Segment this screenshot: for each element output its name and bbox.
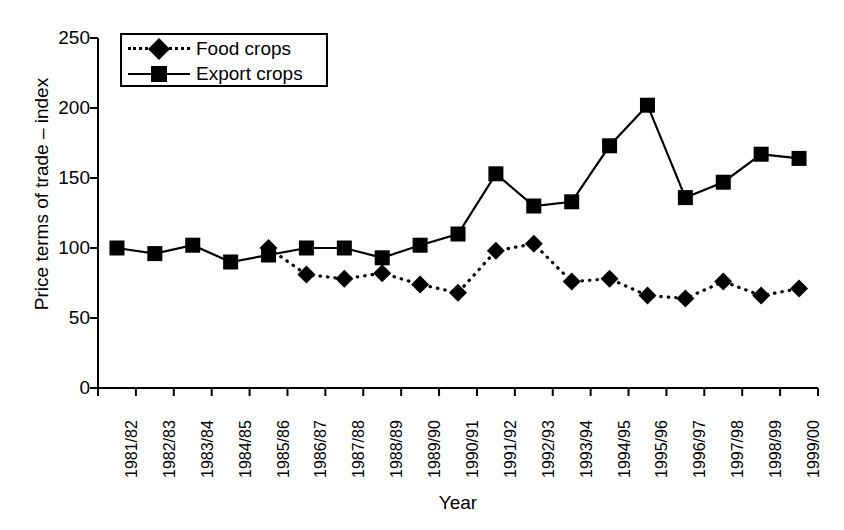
square-marker <box>337 241 352 256</box>
square-marker <box>299 241 314 256</box>
square-marker <box>147 246 162 261</box>
square-marker <box>185 238 200 253</box>
square-marker <box>602 138 617 153</box>
square-marker <box>526 199 541 214</box>
series-export-crops <box>109 98 806 270</box>
diamond-marker <box>335 270 353 288</box>
square-marker <box>109 241 124 256</box>
square-marker <box>564 194 579 209</box>
square-marker <box>716 175 731 190</box>
axis-lines <box>98 38 818 388</box>
diamond-marker <box>752 287 770 305</box>
diamond-marker <box>601 270 619 288</box>
x-axis-ticks <box>98 388 818 396</box>
square-marker <box>375 250 390 265</box>
legend-label-export-crops: Export crops <box>196 64 303 83</box>
square-marker <box>792 151 807 166</box>
legend-item-food-crops: Food crops <box>122 36 326 61</box>
square-marker <box>261 248 276 263</box>
diamond-marker <box>714 273 732 291</box>
square-marker-icon <box>147 62 171 86</box>
diamond-marker <box>563 273 581 291</box>
square-marker <box>223 255 238 270</box>
diamond-marker <box>373 264 391 282</box>
diamond-marker <box>676 289 694 307</box>
diamond-marker <box>525 235 543 253</box>
diamond-marker-icon <box>146 36 172 62</box>
square-marker <box>678 190 693 205</box>
square-marker <box>413 238 428 253</box>
diamond-marker <box>638 287 656 305</box>
square-marker <box>488 166 503 181</box>
chart-legend: Food crops Export crops <box>120 33 328 87</box>
square-marker <box>754 147 769 162</box>
legend-label-food-crops: Food crops <box>196 39 291 58</box>
diamond-marker <box>411 275 429 293</box>
diamond-marker <box>790 280 808 298</box>
y-axis-ticks <box>90 38 98 388</box>
legend-item-export-crops: Export crops <box>122 61 326 86</box>
square-marker <box>640 98 655 113</box>
legend-sample-food-crops <box>122 37 196 61</box>
square-marker <box>451 227 466 242</box>
legend-sample-export-crops <box>122 62 196 86</box>
price-terms-of-trade-chart: Price terms of trade – index Year 050100… <box>0 0 844 530</box>
